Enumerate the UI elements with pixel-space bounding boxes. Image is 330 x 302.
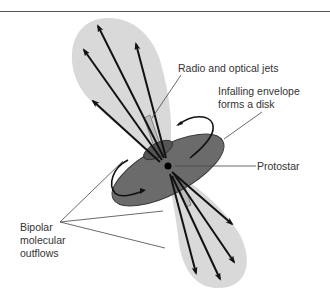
label-jets: Radio and optical jets [178,62,278,74]
label-protostar: Protostar [257,160,300,172]
label-envelope-1: Infalling envelope [218,85,300,97]
label-envelope-2: forms a disk [218,98,275,110]
label-outflows-3: outflows [20,247,59,259]
protostar-dot [165,163,172,170]
label-outflows-1: Bipolar [20,221,53,233]
label-outflows-2: molecular [20,234,66,246]
